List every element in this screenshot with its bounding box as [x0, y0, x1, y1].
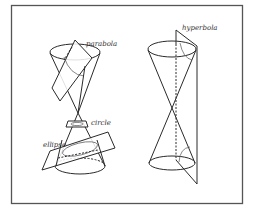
circle-plane: [66, 121, 88, 127]
parabola-label: parabola: [86, 40, 117, 48]
ellipse-plane: [42, 132, 115, 170]
parabola-plane: [52, 40, 92, 113]
conic-sections-diagram: parabola circle ellipse hyperbola: [0, 0, 253, 213]
right-double-cone: [148, 41, 196, 170]
hyperbola-lower-branch: [179, 147, 190, 162]
ellipse-label: ellipse: [43, 141, 66, 149]
right-upper-cone-side-left: [148, 50, 172, 108]
left-lower-cone-base-front: [55, 166, 105, 174]
right-lower-cone-side-right: [172, 108, 195, 163]
figure-frame: [12, 6, 243, 204]
right-upper-cone-rim: [148, 41, 196, 57]
hyperbola-label: hyperbola: [182, 24, 218, 32]
right-lower-cone-side-left: [149, 108, 172, 163]
right-lower-cone-base: [149, 156, 195, 170]
circle-label: circle: [91, 119, 111, 127]
hyperbola-upper-branch: [180, 43, 192, 60]
